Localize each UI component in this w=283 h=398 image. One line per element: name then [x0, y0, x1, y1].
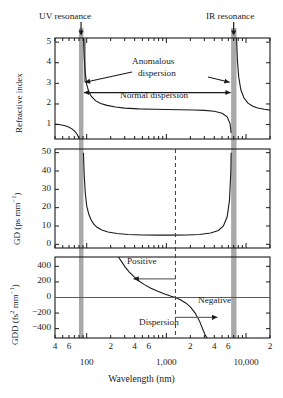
y-tick-label-panel1: 2: [25, 97, 51, 107]
y-tick-label-panel3: −200: [25, 307, 51, 317]
y-tick-label-panel2: 20: [25, 201, 51, 211]
dispersion-figure: UV resonance IR resonance Refractive ind…: [0, 0, 283, 398]
x-decade-tick-label: 10,000: [224, 357, 268, 367]
negative-label: Negative: [198, 295, 231, 305]
panel-frame-1: [55, 38, 270, 139]
curve-panel1-series1: [55, 124, 79, 138]
x-minor-tick-label: 2: [181, 341, 199, 351]
x-decade-tick-label: 100: [65, 357, 109, 367]
y-tick-label-panel3: 0: [25, 291, 51, 301]
y-tick-label-panel3: 400: [25, 260, 51, 270]
anomalous-arrow-right-head: [224, 79, 230, 84]
anomalous-dispersion-label-line2: dispersion: [138, 68, 176, 78]
y-tick-label-panel1: 4: [25, 56, 51, 66]
normal-dispersion-arrow-left: [84, 90, 89, 95]
y-tick-label-panel1: 1: [25, 118, 51, 128]
x-minor-tick-label: 6: [140, 341, 158, 351]
y-tick-label-panel1: 3: [25, 77, 51, 87]
negative-arrow-head: [212, 315, 217, 320]
y-tick-label-panel3: −400: [25, 322, 51, 332]
y-tick-label-panel2: 50: [25, 146, 51, 156]
x-minor-tick-label: 6: [60, 341, 78, 351]
ir-resonance-band: [231, 28, 236, 338]
y-tick-label-panel2: 0: [25, 238, 51, 248]
y-tick-label-panel2: 10: [25, 220, 51, 230]
x-decade-tick-label: 1,000: [144, 357, 188, 367]
y-tick-label-panel3: 200: [25, 275, 51, 285]
dispersion-label: Dispersion: [139, 317, 179, 327]
curve-panel1-series2: [83, 38, 231, 133]
y-tick-label-panel1: 5: [25, 36, 51, 46]
positive-label: Positive: [127, 256, 157, 266]
y-tick-label-panel2: 30: [25, 183, 51, 193]
normal-dispersion-label: Normal dispersion: [120, 90, 188, 100]
x-minor-tick-label: 6: [219, 341, 237, 351]
panel-frame-2: [55, 149, 270, 248]
curve-panel2-series1: [83, 153, 231, 236]
anomalous-arrow-left: [85, 72, 132, 82]
anomalous-dispersion-label-line1: Anomalous: [132, 56, 174, 66]
normal-dispersion-arrow-right: [225, 90, 230, 95]
y-tick-label-panel2: 40: [25, 165, 51, 175]
uv-resonance-band: [79, 28, 83, 338]
x-minor-tick-label: 2: [261, 341, 279, 351]
curve-panel1-series3: [237, 38, 270, 110]
x-minor-tick-label: 2: [102, 341, 120, 351]
